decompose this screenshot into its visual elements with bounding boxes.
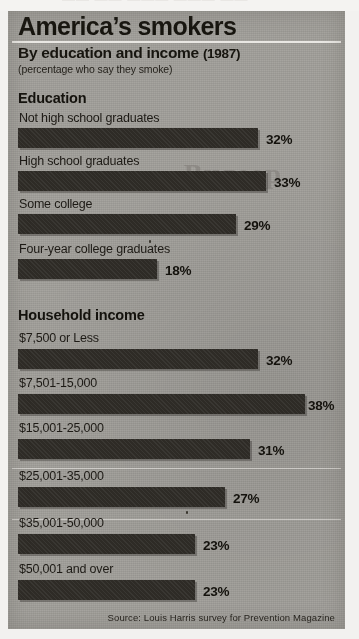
- bar-income-15001-25000: [18, 439, 250, 459]
- bar-income-7501-15000: [18, 394, 305, 414]
- bar-income-7500-or-less: [18, 349, 258, 369]
- bar-some-college: [18, 214, 236, 234]
- print-speck-2: [186, 511, 188, 514]
- bar-label-income-7500-or-less: $7,500 or Less: [19, 331, 99, 345]
- bar-label-four-year-college-graduates: Four-year college graduates: [19, 242, 170, 256]
- chart-title: America’s smokers: [18, 14, 236, 39]
- bar-value-income-7500-or-less: 32%: [266, 353, 292, 368]
- bar-high-school-graduates: [18, 171, 266, 191]
- bar-income-35001-50000: [18, 534, 195, 554]
- bar-label-income-15001-25000: $15,001-25,000: [19, 421, 104, 435]
- bar-label-income-35001-50000: $35,001-50,000: [19, 516, 104, 530]
- bar-label-income-25001-35000: $25,001-35,000: [19, 469, 104, 483]
- bar-income-25001-35000: [18, 487, 225, 507]
- bar-income-50001-and-over: [18, 580, 195, 600]
- bar-value-income-35001-50000: 23%: [203, 538, 229, 553]
- bar-label-some-college: Some college: [19, 197, 92, 211]
- bar-value-income-25001-35000: 27%: [233, 491, 259, 506]
- screenshot-root: —— —— ——— ——— —— Видеор нов America’s sm…: [0, 0, 359, 639]
- infographic-content: America’s smokers By education and incom…: [8, 11, 345, 629]
- bar-value-income-7501-15000: 38%: [308, 398, 334, 413]
- bar-label-not-high-school-graduates: Not high school graduates: [19, 111, 159, 125]
- bar-value-not-high-school-graduates: 32%: [266, 132, 292, 147]
- infographic-panel: Видеор нов America’s smokers By educatio…: [8, 11, 345, 629]
- bleed-text: —— —— ——— ——— ——: [62, 0, 248, 6]
- chart-note: (percentage who say they smoke): [18, 63, 172, 75]
- bar-value-four-year-college-graduates: 18%: [165, 263, 191, 278]
- title-divider: [12, 41, 341, 43]
- bar-value-some-college: 29%: [244, 218, 270, 233]
- bar-label-income-50001-and-over: $50,001 and over: [19, 562, 113, 576]
- bar-value-income-15001-25000: 31%: [258, 443, 284, 458]
- chart-year: (1987): [203, 46, 240, 61]
- section-heading-education: Education: [18, 90, 86, 106]
- bar-not-high-school-graduates: [18, 128, 258, 148]
- chart-subtitle-text: By education and income: [18, 44, 199, 61]
- section-heading-household-income: Household income: [18, 307, 145, 323]
- chart-source: Source: Louis Harris survey for Preventi…: [108, 612, 335, 623]
- chart-subtitle: By education and income (1987): [18, 44, 240, 62]
- bar-four-year-college-graduates: [18, 259, 157, 279]
- bar-value-income-50001-and-over: 23%: [203, 584, 229, 599]
- bar-label-high-school-graduates: High school graduates: [19, 154, 139, 168]
- bar-label-income-7501-15000: $7,501-15,000: [19, 376, 97, 390]
- bar-value-high-school-graduates: 33%: [274, 175, 300, 190]
- page-bleed-strip: —— —— ——— ——— ——: [0, 0, 359, 11]
